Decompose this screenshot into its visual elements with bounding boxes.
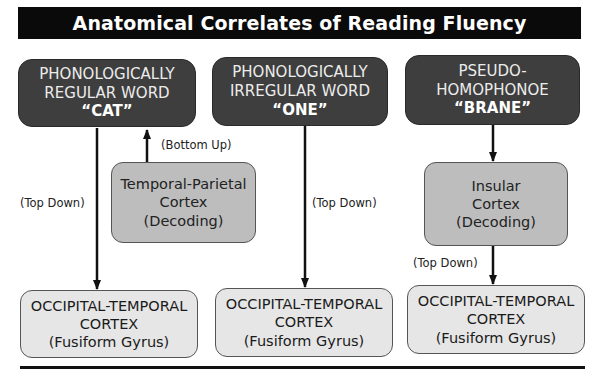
box-line: OCCIPITAL-TEMPORAL: [418, 292, 575, 310]
target-box-pseudohomophone: OCCIPITAL-TEMPORAL CORTEX (Fusiform Gyru…: [407, 285, 585, 354]
box-line: OCCIPITAL-TEMPORAL: [31, 297, 188, 315]
word-box-irregular: PHONOLOGICALLY IRREGULAR WORD “ONE”: [212, 57, 388, 126]
label-top-down-one: (Top Down): [312, 196, 377, 210]
word-type-line: PHONOLOGICALLY: [39, 65, 174, 84]
insular-cortex-box: Insular Cortex (Decoding): [424, 162, 568, 246]
label-bottom-up: (Bottom Up): [161, 138, 232, 152]
temporal-parietal-box: Temporal-Parietal Cortex (Decoding): [111, 162, 256, 243]
word-type-line: PHONOLOGICALLY: [232, 63, 367, 82]
target-box-regular: OCCIPITAL-TEMPORAL CORTEX (Fusiform Gyru…: [20, 290, 198, 358]
box-line: (Decoding): [456, 213, 536, 231]
box-line: Insular: [471, 177, 520, 195]
label-top-down-cat: (Top Down): [20, 196, 85, 210]
box-line: OCCIPITAL-TEMPORAL: [226, 295, 383, 313]
box-line: (Fusiform Gyrus): [49, 333, 170, 351]
word-box-regular: PHONOLOGICALLY REGULAR WORD “CAT”: [18, 59, 196, 127]
box-line: CORTEX: [467, 310, 526, 328]
box-line: (Fusiform Gyrus): [436, 329, 557, 347]
box-line: Cortex: [160, 193, 208, 211]
box-line: CORTEX: [275, 313, 334, 331]
box-line: Temporal-Parietal: [120, 175, 246, 193]
word-example: “CAT”: [81, 102, 132, 121]
target-box-irregular: OCCIPITAL-TEMPORAL CORTEX (Fusiform Gyru…: [215, 288, 393, 357]
word-type-line: REGULAR WORD: [44, 84, 169, 103]
word-box-pseudohomophone: PSEUDO- HOMOPHONOE “BRANE”: [405, 55, 580, 125]
word-example: “BRANE”: [454, 99, 531, 118]
word-type-line: IRREGULAR WORD: [230, 82, 370, 101]
word-type-line: HOMOPHONOE: [436, 81, 548, 100]
label-top-down-brane: (Top Down): [413, 256, 478, 270]
word-type-line: PSEUDO-: [458, 62, 526, 81]
word-example: “ONE”: [272, 101, 327, 120]
box-line: CORTEX: [80, 315, 139, 333]
box-line: (Decoding): [144, 212, 224, 230]
box-line: Cortex: [472, 195, 520, 213]
bottom-divider: [20, 366, 585, 369]
box-line: (Fusiform Gyrus): [244, 332, 365, 350]
